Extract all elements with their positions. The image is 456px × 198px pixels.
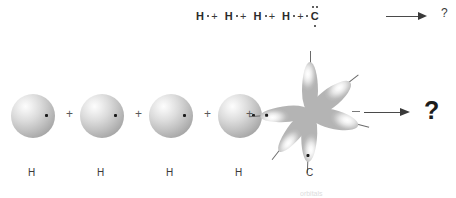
arrow-shaft (364, 112, 402, 113)
figure-canvas: H + H + H + H + C ? (0, 0, 456, 198)
atom-label-h-2: H (97, 168, 104, 178)
atom-symbol-h: H (253, 11, 261, 22)
hydrogen-s-orbital-2 (80, 94, 124, 138)
hydrogen-s-orbital-3 (149, 94, 193, 138)
lewis-dot-equation: H + H + H + H + C (196, 4, 319, 28)
plus-sign: + (246, 108, 253, 120)
bottom-partial-text: orbitals (300, 190, 450, 198)
electron-dot (207, 15, 209, 17)
electron-dot (314, 25, 316, 27)
bond-stub (352, 111, 360, 112)
atom-label-h-1: H (28, 168, 35, 178)
arrow-head (400, 108, 410, 116)
product-question-mark-main: ? (424, 98, 439, 123)
atom-label-c: C (306, 168, 313, 178)
lewis-term-h-2: H (225, 11, 233, 22)
reaction-arrow-icon (386, 15, 428, 17)
plus-sign: + (66, 108, 73, 120)
orbital-lobe-down (300, 112, 318, 163)
carbon-hybrid-orbital (258, 48, 362, 160)
lewis-term-h-3: H (253, 11, 261, 22)
atom-symbol-h: H (282, 11, 290, 22)
lewis-term-c: C (311, 11, 319, 22)
reaction-arrow-icon-main (364, 111, 414, 113)
electron-dot (312, 6, 314, 8)
plus-sign: + (135, 108, 142, 120)
arrow-shaft (386, 16, 420, 17)
orbital-equation-row: + + + + (0, 88, 456, 142)
atom-label-h-3: H (166, 168, 173, 178)
lewis-term-h-4: H (282, 11, 290, 22)
atom-symbol-c: C (311, 11, 319, 22)
hydrogen-s-orbital-1 (11, 94, 55, 138)
plus-sign: + (204, 108, 211, 120)
electron-dot (306, 15, 308, 17)
atom-symbol-h: H (196, 11, 204, 22)
electron-dot (236, 15, 238, 17)
arrow-head (418, 12, 427, 20)
atom-label-h-4: H (235, 168, 242, 178)
electron-dot (316, 6, 318, 8)
product-question-mark: ? (441, 7, 448, 19)
lewis-term-h-1: H (196, 11, 204, 22)
electron-dot (265, 15, 267, 17)
atom-symbol-h: H (225, 11, 233, 22)
